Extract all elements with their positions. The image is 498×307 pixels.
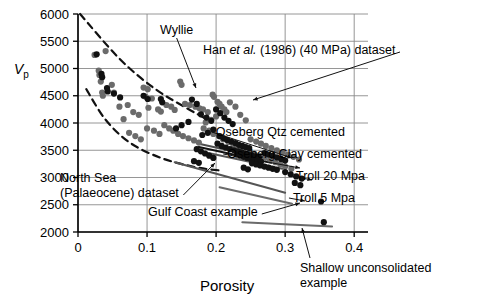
annotation-oseberg-qtz: Oseberg Qtz cemented <box>216 125 345 139</box>
scatter-point <box>126 130 132 136</box>
scatter-point <box>125 102 131 108</box>
scatter-point <box>237 112 243 118</box>
scatter-point <box>196 140 202 146</box>
annotation-text-italic: et al. <box>229 43 256 57</box>
scatter-point <box>282 169 288 175</box>
annotation-troll-5: Troll 5 Mpa <box>293 191 355 205</box>
scatter-point <box>159 99 165 105</box>
scatter-point <box>185 135 191 141</box>
scatter-point <box>178 122 184 128</box>
annotation-line: Shallow unconsolidated <box>300 261 431 275</box>
x-tick-label: 0.3 <box>276 240 294 255</box>
scatter-point <box>185 119 191 125</box>
scatter-point <box>156 131 162 137</box>
annotation-oseberg-clay: Oseberg Clay cemented <box>227 147 362 161</box>
annotation-han: Han et al. (1986) (40 MPa) dataset <box>203 43 396 57</box>
annotation-line: example <box>300 276 347 290</box>
scatter-point <box>199 132 205 138</box>
annotation-line: North Sea <box>60 171 116 185</box>
scatter-point <box>158 108 164 114</box>
scatter-point <box>105 88 111 94</box>
scatter-point <box>151 128 157 134</box>
scatter-point <box>194 101 200 107</box>
scatter-point <box>196 160 202 166</box>
y-tick-label: 4000 <box>40 116 69 131</box>
scatter-point <box>187 102 193 108</box>
scatter-point <box>232 104 238 110</box>
y-tick-label: 5500 <box>40 34 69 49</box>
annotation-text: (1986) (40 MPa) dataset <box>257 43 396 57</box>
x-tick-label: 0.4 <box>345 240 363 255</box>
scatter-point <box>145 86 151 92</box>
scatter-point <box>321 219 327 225</box>
scatter-point <box>103 48 109 54</box>
scatter-point <box>100 93 106 99</box>
scatter-point <box>144 125 150 131</box>
scatter-point <box>172 107 178 113</box>
x-tick-label: 0.2 <box>207 240 225 255</box>
annotation-line: (Palaeocene) dataset <box>60 186 179 200</box>
y-tick-labels: 200025003000350040004500500055006000 <box>40 7 69 240</box>
scatter-point <box>205 130 211 136</box>
annotation-wyllie: Wyllie <box>160 23 193 37</box>
scatter-point <box>120 116 126 122</box>
scatter-point <box>198 111 204 117</box>
vp-porosity-chart: 200025003000350040004500500055006000 00.… <box>0 0 498 307</box>
scatter-point <box>180 133 186 139</box>
x-tick-label: 0 <box>74 240 81 255</box>
scatter-point <box>208 118 214 124</box>
y-tick-label: 4500 <box>40 88 69 103</box>
scatter-point <box>173 125 179 131</box>
scatter-point <box>189 96 195 102</box>
scatter-point <box>210 155 216 161</box>
scatter-point <box>245 166 251 172</box>
scatter-point <box>178 82 184 88</box>
scatter-point <box>99 74 105 80</box>
scatter-point <box>117 94 123 100</box>
scatter-point <box>274 167 280 173</box>
scatter-point <box>243 117 249 123</box>
scatter-point <box>227 99 233 105</box>
annotation-gulf-coast: Gulf Coast example <box>148 205 258 219</box>
scatter-point <box>223 109 229 115</box>
scatter-point <box>116 104 122 110</box>
scatter-point <box>111 90 117 96</box>
scatter-point <box>94 51 100 57</box>
y-tick-label: 6000 <box>40 7 69 22</box>
y-tick-label: 2000 <box>40 225 69 240</box>
scatter-point <box>205 109 211 115</box>
x-tick-label: 0.1 <box>138 240 156 255</box>
annotation-troll-20: Troll 20 Mpa <box>296 169 365 183</box>
y-axis-label-subscript: p <box>23 69 29 80</box>
scatter-point <box>132 133 138 139</box>
scatter-point <box>130 109 136 115</box>
y-tick-label: 3500 <box>40 143 69 158</box>
annotation-text: Han <box>203 43 229 57</box>
x-axis-label: Porosity <box>200 277 255 294</box>
scatter-point <box>138 136 144 142</box>
scatter-point <box>136 112 142 118</box>
scatter-point <box>145 105 151 111</box>
y-tick-label: 5000 <box>40 61 69 76</box>
scatter-point <box>145 96 151 102</box>
